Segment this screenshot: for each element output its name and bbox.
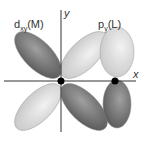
label-suffix: (L) (108, 18, 121, 30)
x-axis-label: x (133, 69, 139, 80)
label-subscript: y (104, 25, 108, 32)
metal-nucleus (58, 78, 65, 85)
py-lobe-upper (100, 27, 134, 77)
ligand-orbital-label: py(L) (98, 19, 121, 30)
metal-orbital-label: dxy(M) (14, 19, 44, 30)
label-suffix: (M) (27, 18, 44, 30)
dxy-lobe-lower-left (7, 76, 69, 138)
dxy-lobe-upper-left (7, 24, 69, 86)
ligand-nucleus (112, 78, 119, 85)
y-axis-label: y (64, 8, 70, 19)
label-subscript: xy (20, 25, 27, 32)
py-lobe-lower (103, 80, 131, 128)
